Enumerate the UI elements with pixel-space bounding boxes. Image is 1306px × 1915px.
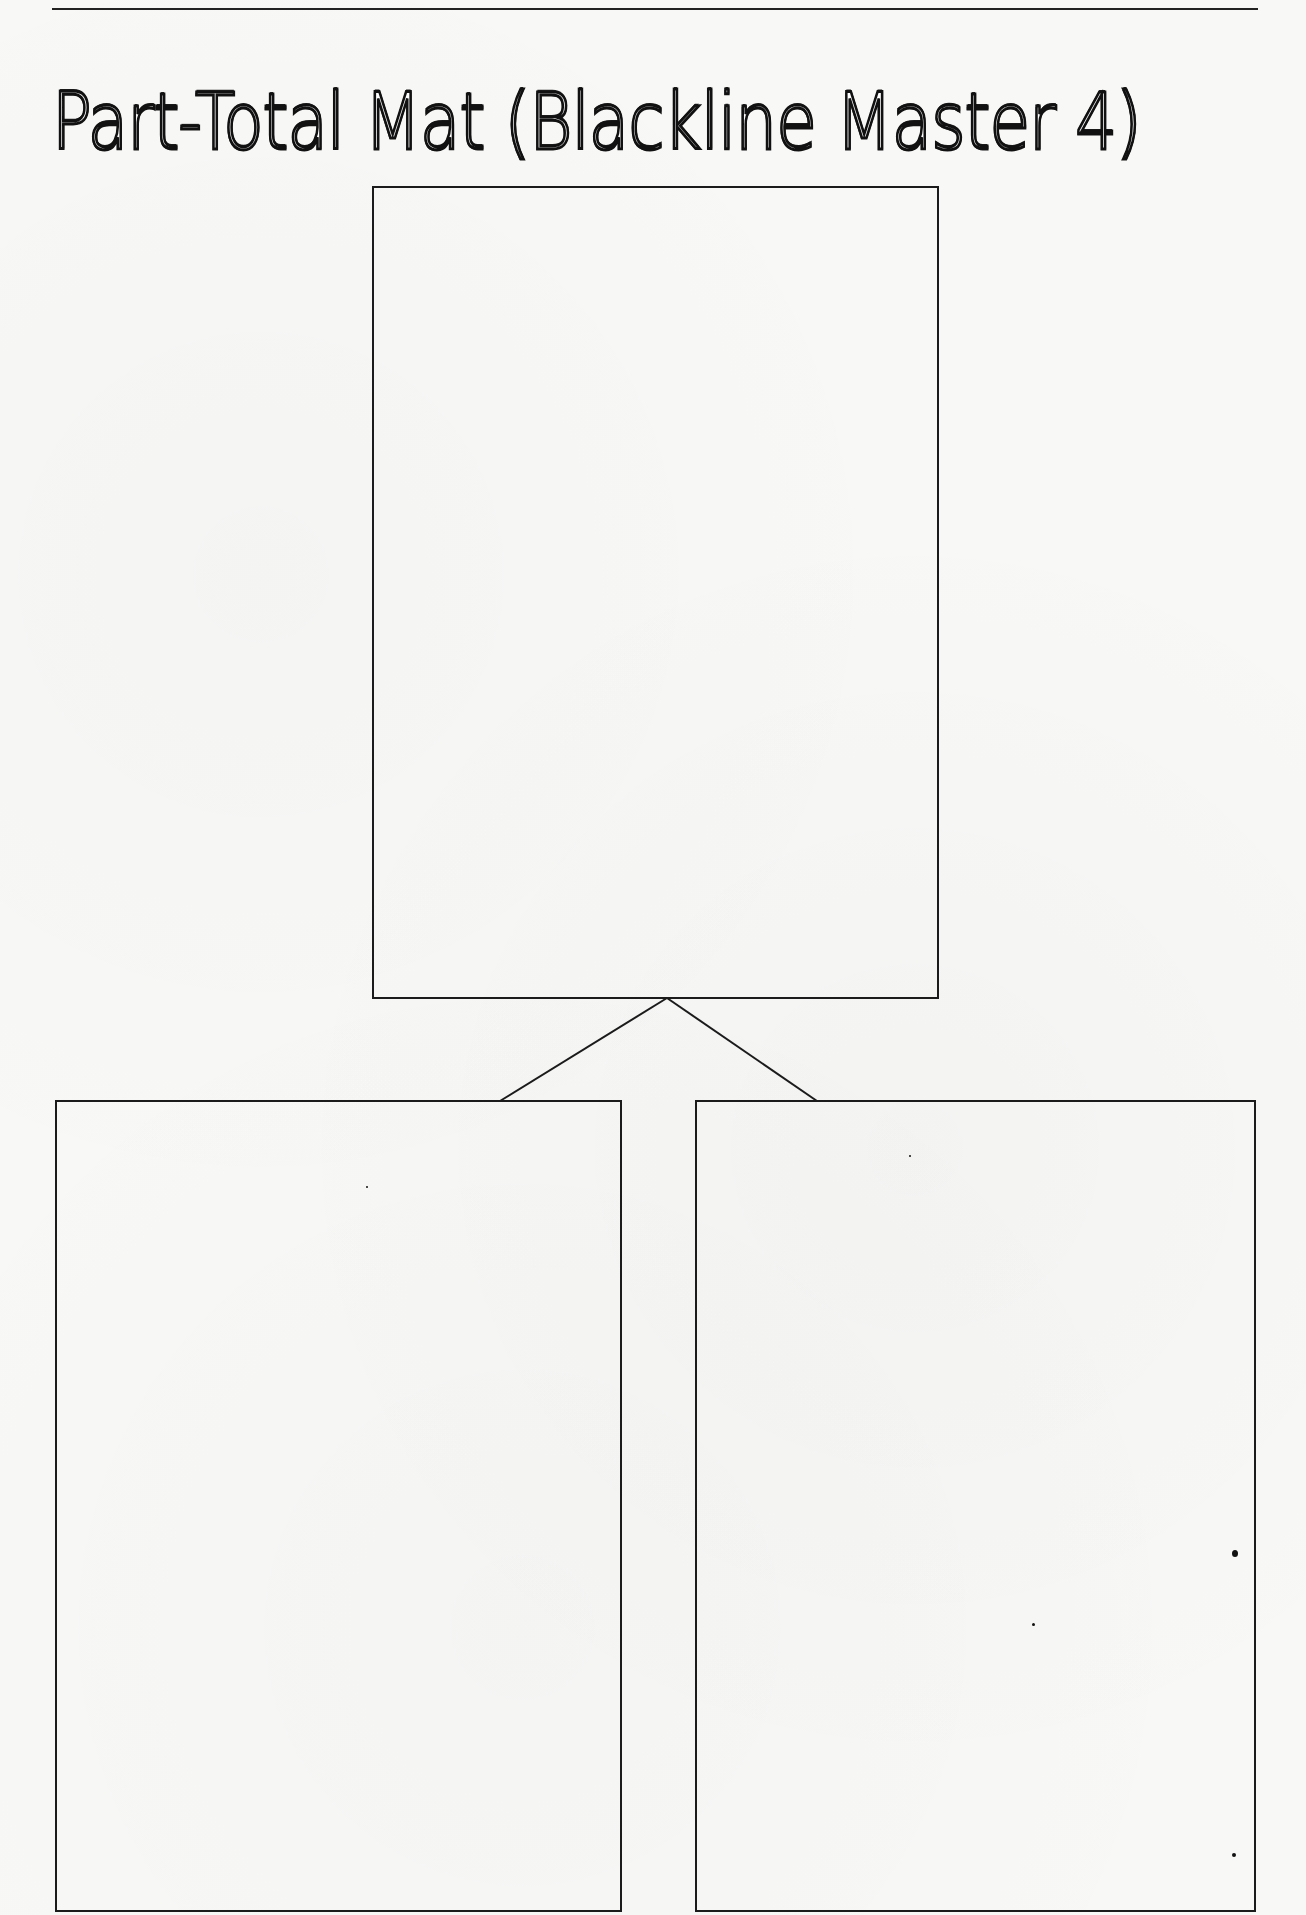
page-title: Part-Total Mat (Blackline Master 4) bbox=[52, 66, 1272, 179]
part-box-left-label: Part bbox=[57, 1102, 58, 1103]
scan-speck bbox=[1032, 1623, 1035, 1626]
scan-speck bbox=[909, 1155, 911, 1157]
total-box-label: Total bbox=[374, 188, 375, 189]
scan-speck bbox=[366, 1186, 368, 1188]
scan-speck bbox=[1232, 1550, 1238, 1557]
scan-speck bbox=[1232, 1853, 1236, 1857]
part-box-right: Part bbox=[695, 1100, 1256, 1912]
connector-left bbox=[500, 998, 667, 1101]
part-box-left: Part bbox=[55, 1100, 622, 1912]
connector-right bbox=[667, 998, 817, 1101]
total-box: Total bbox=[372, 186, 939, 999]
worksheet-page: Part-Total Mat (Blackline Master 4) Tota… bbox=[0, 0, 1306, 1915]
header-rule bbox=[52, 8, 1258, 10]
part-box-right-label: Part bbox=[697, 1102, 698, 1103]
